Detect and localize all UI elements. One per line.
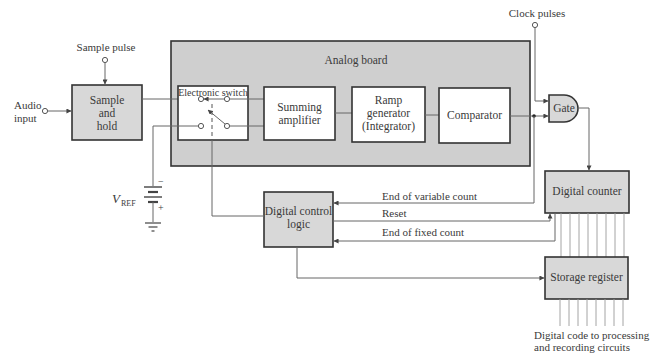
vref-minus: − bbox=[158, 176, 164, 187]
comparator-label: Comparator bbox=[447, 109, 502, 122]
storage-register-label: Storage register bbox=[550, 271, 623, 284]
electronic-switch-label: Electronic switch bbox=[178, 87, 248, 98]
vref-label: V REF bbox=[112, 191, 136, 208]
sample-and-hold-block: Sample and hold bbox=[72, 85, 142, 140]
reset-label: Reset bbox=[382, 207, 406, 219]
vref-plus: + bbox=[158, 202, 164, 213]
control-logic-label-1: Digital control bbox=[265, 205, 332, 218]
sample-pulse-terminal-icon bbox=[102, 57, 107, 62]
control-logic-label-2: logic bbox=[287, 218, 310, 231]
sample-and-hold-label-1: Sample bbox=[90, 94, 125, 107]
clock-terminal-icon bbox=[532, 22, 537, 27]
audio-input-label-line1: Audio bbox=[14, 99, 42, 111]
end-of-variable-count-label: End of variable count bbox=[382, 190, 477, 202]
sample-and-hold-label-3: hold bbox=[97, 120, 118, 132]
sample-and-hold-label-2: and bbox=[99, 107, 116, 119]
digital-counter-label: Digital counter bbox=[552, 185, 621, 198]
svg-text:REF: REF bbox=[121, 199, 136, 208]
output-label-line1: Digital code to processing bbox=[534, 329, 650, 341]
comparator-block: Comparator bbox=[439, 88, 510, 143]
end-of-fixed-count-label: End of fixed count bbox=[382, 226, 464, 238]
output-bus bbox=[560, 299, 623, 326]
audio-input-terminal-icon bbox=[42, 108, 47, 113]
switch-terminal-icon bbox=[198, 123, 203, 128]
vref-battery-icon: − + bbox=[144, 176, 164, 222]
ramp-generator-block: Ramp generator (Integrator) bbox=[352, 87, 425, 142]
switch-terminal-icon bbox=[224, 96, 229, 101]
gate-label: Gate bbox=[553, 102, 575, 114]
audio-input: Audio input bbox=[14, 99, 71, 124]
switch-terminal-icon bbox=[198, 96, 203, 101]
switch-terminal-icon bbox=[224, 123, 229, 128]
digital-counter-block: Digital counter bbox=[545, 171, 629, 213]
electronic-switch-block: Electronic switch bbox=[178, 86, 248, 140]
storage-register-block: Storage register bbox=[545, 257, 628, 299]
summing-amplifier-label-2: amplifier bbox=[278, 114, 320, 127]
sample-pulse-input: Sample pulse bbox=[77, 41, 136, 84]
summing-amplifier-label-1: Summing bbox=[277, 101, 322, 114]
ramp-generator-label-1: Ramp bbox=[375, 94, 403, 107]
digital-control-logic-block: Digital control logic bbox=[264, 192, 333, 247]
clock-pulses-label: Clock pulses bbox=[509, 7, 566, 19]
ground-icon bbox=[145, 223, 161, 231]
summing-amplifier-block: Summing amplifier bbox=[264, 87, 335, 140]
adc-block-diagram: Analog board Sample pulse Audio input Sa… bbox=[0, 0, 651, 360]
ramp-generator-label-2: generator bbox=[367, 107, 411, 120]
sample-pulse-label: Sample pulse bbox=[77, 41, 136, 53]
ramp-generator-label-3: (Integrator) bbox=[362, 120, 415, 133]
gate-block: Gate bbox=[549, 95, 578, 122]
analog-board-label: Analog board bbox=[325, 54, 388, 67]
output-label-line2: and recording circuits bbox=[534, 341, 630, 353]
counter-to-register-bus bbox=[561, 213, 624, 257]
audio-input-label-line2: input bbox=[14, 112, 37, 124]
